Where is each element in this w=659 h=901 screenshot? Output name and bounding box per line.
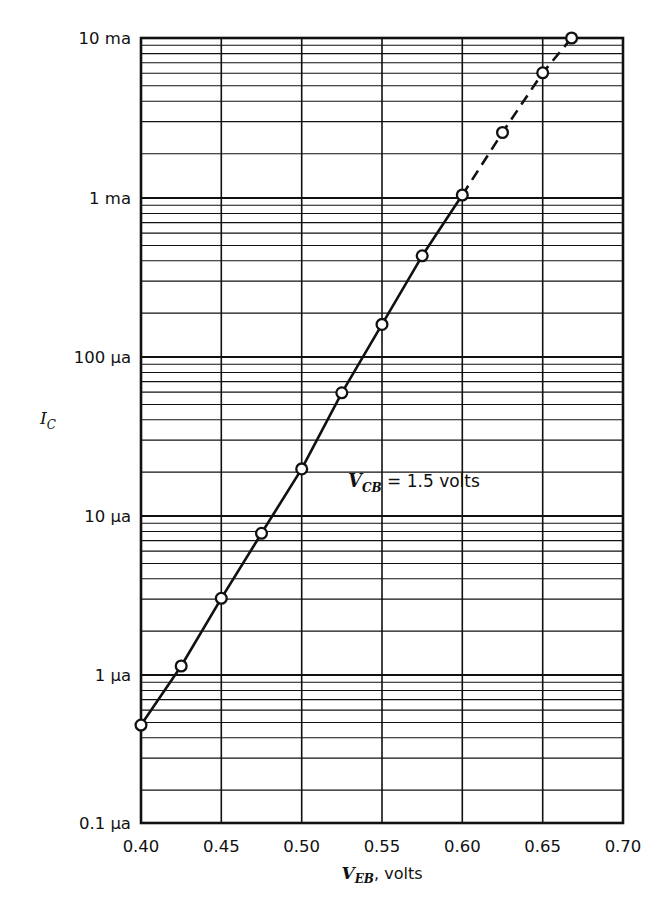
x-axis-title: VEB, volts <box>342 863 423 886</box>
x-tick-labels: 0.40 0.45 0.50 0.55 0.60 0.65 0.70 <box>123 837 642 856</box>
y-axis-title: IC <box>39 408 56 432</box>
annotation-subscript: CB <box>362 481 382 495</box>
x-tick-label: 0.70 <box>605 837 642 856</box>
y-axis-title-sub: C <box>47 418 56 432</box>
y-tick-label: 10 μa <box>84 507 131 526</box>
y-tick-label: 0.1 μa <box>79 814 131 833</box>
annotation-value: = 1.5 volts <box>382 471 480 491</box>
data-point-marker <box>216 593 227 604</box>
x-tick-label: 0.55 <box>364 837 401 856</box>
data-point-marker <box>537 67 548 78</box>
semilog-chart-figure: 10 ma 1 ma 100 μa 10 μa 1 μa 0.1 μa 0.40… <box>0 0 659 901</box>
data-point-marker <box>377 319 388 330</box>
data-point-marker <box>136 720 147 731</box>
x-axis-title-tail: , volts <box>374 864 422 883</box>
x-tick-label: 0.45 <box>203 837 240 856</box>
x-tick-label: 0.40 <box>123 837 160 856</box>
data-point-marker <box>336 387 347 398</box>
data-point-marker <box>457 190 468 201</box>
data-point-marker <box>566 33 577 44</box>
data-point-marker <box>176 661 187 672</box>
y-tick-label: 1 μa <box>95 666 131 685</box>
x-tick-label: 0.50 <box>283 837 320 856</box>
chart-svg: 10 ma 1 ma 100 μa 10 μa 1 μa 0.1 μa 0.40… <box>0 0 659 901</box>
x-tick-label: 0.60 <box>444 837 481 856</box>
data-point-marker <box>256 528 267 539</box>
data-point-marker <box>497 127 508 138</box>
y-tick-labels: 10 ma 1 ma 100 μa 10 μa 1 μa 0.1 μa <box>74 29 131 833</box>
data-point-marker <box>296 464 307 475</box>
x-tick-label: 0.65 <box>524 837 561 856</box>
x-axis-title-sub: EB <box>354 872 374 886</box>
y-tick-label: 100 μa <box>74 348 131 367</box>
y-tick-label: 1 ma <box>89 189 131 208</box>
data-point-marker <box>417 250 428 261</box>
y-tick-label: 10 ma <box>79 29 131 48</box>
